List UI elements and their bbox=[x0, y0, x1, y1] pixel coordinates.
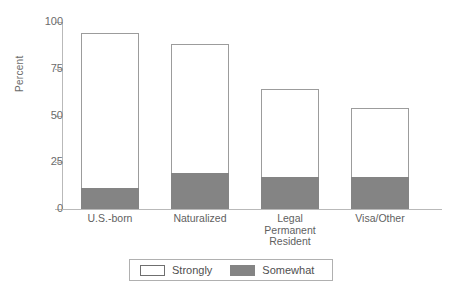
bar-segment-somewhat[interactable] bbox=[261, 177, 319, 209]
x-axis-category-label-line: Resident bbox=[231, 236, 349, 248]
legend-swatch-somewhat-icon bbox=[230, 265, 255, 276]
x-axis-line bbox=[62, 209, 442, 210]
legend-item-strongly: Strongly bbox=[130, 264, 212, 276]
legend-swatch-strongly-icon bbox=[140, 265, 165, 276]
plot-area bbox=[63, 22, 442, 209]
bar-chart: Percent 0255075100 U.S.-bornNaturalizedL… bbox=[0, 0, 462, 292]
legend-label-strongly: Strongly bbox=[172, 264, 212, 276]
bar-segment-somewhat[interactable] bbox=[351, 177, 409, 209]
bar-segment-somewhat[interactable] bbox=[81, 188, 139, 209]
bar-group[interactable] bbox=[351, 108, 409, 209]
chart-legend: Strongly Somewhat bbox=[129, 259, 333, 281]
bar-group[interactable] bbox=[261, 89, 319, 209]
y-axis-tick-label: 50 bbox=[21, 110, 63, 121]
y-axis-title: Percent bbox=[14, 22, 25, 92]
bar-group[interactable] bbox=[171, 44, 229, 209]
bar-group[interactable] bbox=[81, 33, 139, 209]
y-axis-tick-label: 100 bbox=[21, 16, 63, 27]
y-axis-tick-label: 75 bbox=[21, 63, 63, 74]
bar-segment-strongly[interactable] bbox=[81, 33, 139, 209]
legend-item-somewhat: Somewhat bbox=[212, 264, 314, 276]
legend-label-somewhat: Somewhat bbox=[262, 264, 314, 276]
x-axis-category-label-line: Visa/Other bbox=[321, 213, 439, 225]
bar-segment-somewhat[interactable] bbox=[171, 173, 229, 209]
x-axis-category-label: Visa/Other bbox=[321, 213, 439, 225]
y-axis-tick-label: 25 bbox=[21, 156, 63, 167]
